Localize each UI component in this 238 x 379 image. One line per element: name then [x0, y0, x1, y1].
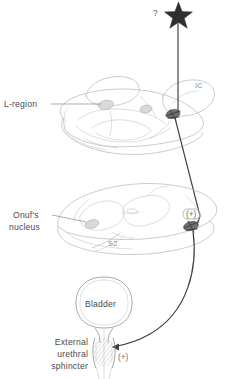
- caudal-fold: [150, 121, 170, 138]
- sphincter-label-line1: External: [55, 337, 88, 347]
- spinal-cord-group: (+) S2: [58, 183, 217, 254]
- sphincter-label-line3: sphincter: [51, 361, 88, 371]
- midline-raphe: [110, 111, 112, 136]
- sphincter-label-line2: urethral: [57, 349, 88, 359]
- l-region-label: L-region: [4, 99, 37, 109]
- anatomical-diagram: ? IC L-region: [0, 0, 238, 379]
- dorsal-root-entry: [148, 186, 168, 196]
- sphincter-plus-label: (+): [118, 353, 129, 362]
- brainstem-rostral-tip: [64, 108, 68, 122]
- sphincter-label-group: External urethral sphincter: [51, 337, 88, 371]
- brainstem-dorsal-surface: [60, 89, 203, 147]
- l-region-label-group: L-region: [4, 99, 101, 109]
- cord-plus-label: (+): [186, 210, 197, 219]
- ventricle-floor-lower: [76, 126, 170, 142]
- central-canal: [127, 209, 137, 213]
- onufs-label-group: Onuf's nucleus: [9, 210, 86, 232]
- grey-matter-right: [123, 195, 170, 226]
- ic-inner-fold: [172, 91, 198, 104]
- figure-root: ? IC L-region: [0, 0, 238, 379]
- onufs-label-line2: nucleus: [9, 222, 40, 232]
- onufs-label-line1: Onuf's: [13, 210, 39, 220]
- ventricle-inner-1: [92, 120, 152, 131]
- urethra-distal-right: [109, 368, 112, 379]
- urethra-distal-left: [96, 368, 99, 379]
- onufs-leader-line: [52, 215, 86, 222]
- lateral-funiculus-left: [74, 200, 88, 222]
- l-region-nucleus: [98, 99, 115, 111]
- unknown-marker-label: ?: [153, 9, 158, 18]
- star-pathway-group: ?: [153, 2, 192, 112]
- s2-label: S2: [108, 239, 117, 248]
- ic-label: IC: [195, 81, 203, 90]
- brainstem-lower-edge: [62, 118, 203, 154]
- ventricle-inner-2: [96, 132, 150, 140]
- brainstem-group: [60, 76, 214, 154]
- bladder-label: Bladder: [85, 299, 116, 309]
